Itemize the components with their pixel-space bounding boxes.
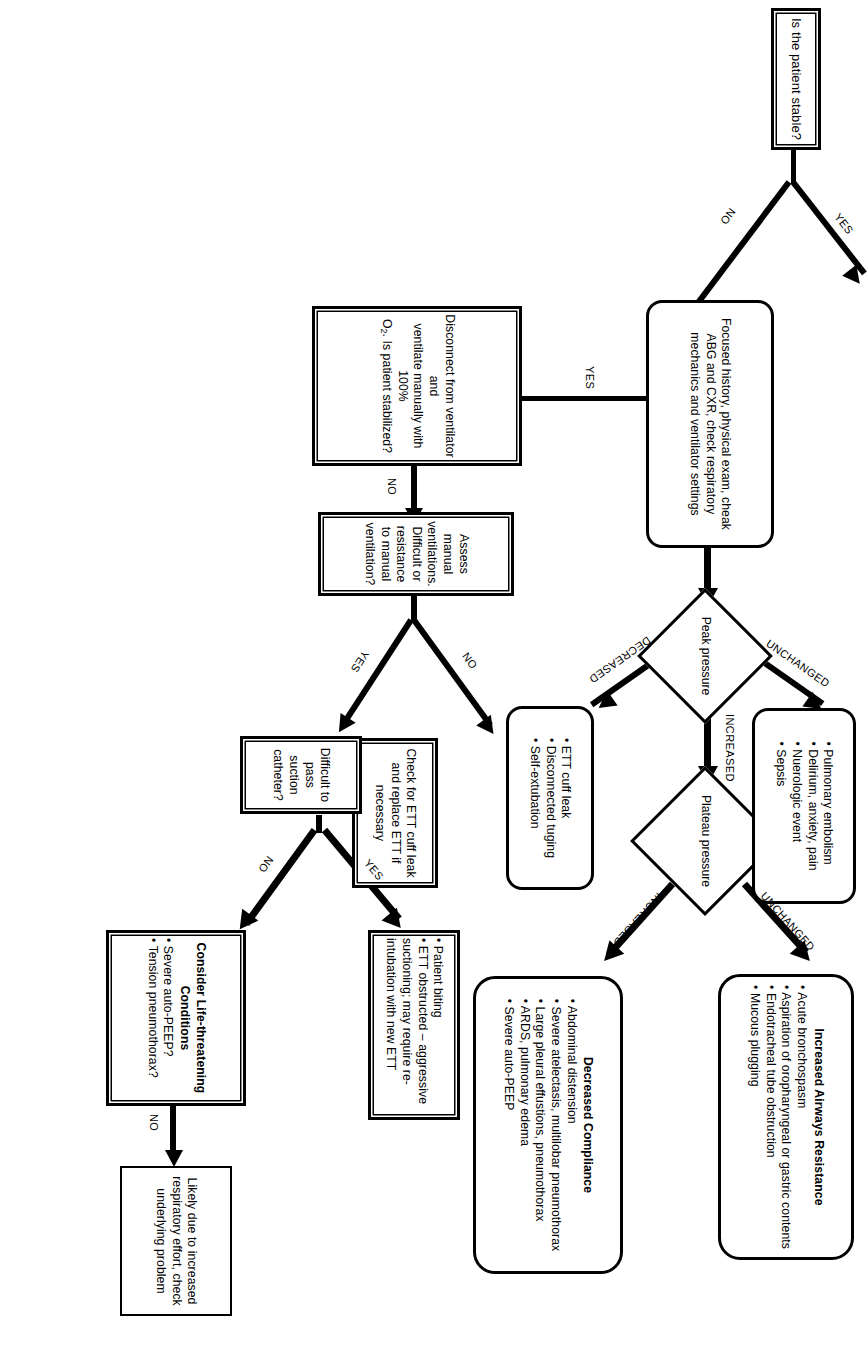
node-plateau-pressure[interactable]: Plateau pressure [652,788,758,894]
edge-label-disconnect-no: NO [386,478,398,495]
arrowhead-assess-no [476,715,501,739]
node-disconnect-ventilator-label: Disconnect from ventilator and ventilate… [375,309,458,463]
section-heading: Consider Life-threatening Conditions [177,938,208,1098]
decreased-causes-list: • ETT cuff leak • Disconnected tuging • … [527,738,574,858]
node-disconnect-ventilator[interactable]: Disconnect from ventilator and ventilate… [312,306,522,466]
node-decreased-compliance[interactable]: Decreased Compliance • Abdominal distens… [473,976,623,1274]
list-item: • Severe atelectasis, multilobar pneumot… [548,999,564,1252]
edge-label-disconnect-yes: YES [584,366,596,389]
list-item: • Sepsis [773,741,789,870]
arrowhead-peak-decreased [593,691,617,715]
node-unchanged-causes[interactable]: • Pulmonary embolism • Delirium, anxiety… [752,708,856,904]
node-focused-history[interactable]: Focused history, physical exam, cheak AB… [646,300,774,548]
node-life-threatening-conditions[interactable]: Consider Life-threatening Conditions • S… [106,930,246,1106]
edge-label-peak-unchanged: UNCHANGED [764,637,832,690]
node-likely-increased-respiratory-effort[interactable]: Likely due to increased respiratory effo… [120,1166,232,1316]
list-item: • ARDS, pulmonary edema [516,999,532,1252]
list-item: • Severe auto-PEEP [501,999,517,1252]
node-difficult-suction-catheter-label: Difficult to pass suction catheter? [268,739,334,811]
node-assess-manual-ventilations[interactable]: Assess manual ventilations. Difficult or… [318,512,514,596]
edge-focused-peak [704,546,711,594]
node-is-patient-stable-label: Is the patient stable? [786,11,807,147]
node-focused-history-label: Focused history, physical exam, cheak AB… [685,303,736,545]
list-item: • Self-extubation [527,738,543,858]
edge-assess-no [412,618,493,727]
edge-start-branch [791,148,796,184]
list-item: • Abdominal distension [563,999,579,1252]
node-peak-pressure[interactable]: Peak pressure [657,608,753,704]
list-item: • Nuerologic event [788,741,804,870]
list-item: • Disconnected tuging [542,738,558,858]
edge-label-life-no: NO [148,1114,160,1131]
edge-suction-fork [316,815,322,833]
arrowhead-life-no [165,1150,183,1167]
node-patient-biting-ett-obstructed[interactable]: • Patient biting • ETT obstructed – aggr… [368,930,460,1120]
node-decreased-causes[interactable]: • ETT cuff leak • Disconnected tuging • … [506,706,594,890]
patient-biting-list: • Patient biting • ETT obstructed – aggr… [383,938,445,1112]
node-likely-increased-respiratory-effort-label: Likely due to increased respiratory effo… [151,1168,202,1314]
list-item: • Large pleural effustions, pneumothorax [532,999,548,1252]
life-threatening-list: Consider Life-threatening Conditions • S… [144,938,207,1098]
list-item: • ETT cuff leak [558,738,574,858]
edge-label-assess-no: NO [460,650,480,671]
list-item: • Mucous plugging [746,985,762,1249]
node-difficult-suction-catheter[interactable]: Difficult to pass suction catheter? [240,736,362,814]
node-plateau-pressure-label: Plateau pressure [652,788,758,894]
edge-suction-no [243,828,317,926]
node-assess-manual-ventilations-label: Assess manual ventilations. Difficult or… [359,515,472,593]
node-increased-airways-resistance[interactable]: Increased Airways Resistance • Acute bro… [718,974,854,1260]
increased-airways-resistance-list: Increased Airways Resistance • Acute bro… [746,985,825,1249]
unchanged-causes-list: • Pulmonary embolism • Delirium, anxiety… [773,741,835,870]
list-item: • Pulmonary embolism [820,741,836,870]
node-peak-pressure-label: Peak pressure [657,608,753,704]
edge-label-peak-increased: INCREASED [724,714,736,782]
node-is-patient-stable[interactable]: Is the patient stable? [771,8,821,150]
edge-label-assess-yes: YES [349,649,372,675]
disconnect-line1: Disconnect from ventilator and [427,314,457,458]
edge-label-suction-no: NO [256,854,276,875]
list-item: • Aspiration of oropharyngeal or gastric… [778,985,794,1249]
edge-label-plateau-increased: INCREASED [611,891,665,949]
decreased-compliance-list: Decreased Compliance • Abdominal distens… [501,999,596,1252]
disconnect-line3-post: . Is patient stabilized? [380,333,394,453]
list-item: • Endotracheal tube obstruction [762,985,778,1249]
list-item: • Delirium, anxiety, pain [804,741,820,870]
list-item: • Severe auto-PEEP? [160,938,176,1098]
edge-label-stable-no: NO [718,206,738,227]
list-item: • Tension pneumothorax? [144,938,160,1098]
disconnect-line2: ventilate manually with 100% [396,324,426,449]
list-item: • Acute bronchospasm [793,985,809,1249]
edge-life-no [170,1106,176,1154]
list-item: • ETT obstructed – aggressive suctioning… [383,938,430,1112]
section-heading: Decreased Compliance [580,999,596,1252]
list-item: • Patient biting [430,938,446,1112]
edge-disconnect-no [411,466,417,512]
section-heading: Increased Airways Resistance [810,985,826,1249]
arrowhead-assess-yes [331,713,355,737]
disconnect-line3-pre: O [380,319,394,329]
